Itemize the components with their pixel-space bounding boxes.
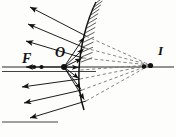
virtual-ray [86,65,150,101]
focal-point-dot [32,65,36,69]
reflected-ray [30,101,86,118]
convex-mirror [79,0,104,110]
reflected-ray [22,79,80,87]
focal-point-dot-2 [39,65,43,69]
virtual-ray-extensions [80,36,150,101]
image-point-dot [148,63,153,68]
virtual-ray [83,58,150,65]
label-I: I [157,43,164,58]
label-F: F [21,51,32,66]
reflected-rays [22,7,86,118]
image-point-dot-2 [142,64,146,68]
object-point-dot [61,64,67,70]
virtual-ray [86,36,150,65]
reflected-ray [30,7,86,36]
principal-axis [2,67,174,122]
reflected-ray [24,90,82,103]
label-O: O [55,45,65,60]
optics-ray-diagram: F O I [0,0,176,137]
virtual-ray [85,48,150,65]
figure-canvas: F O I [0,0,176,137]
